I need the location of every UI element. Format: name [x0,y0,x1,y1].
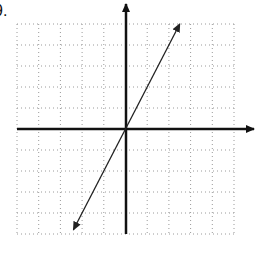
coordinate-plane [0,0,257,257]
